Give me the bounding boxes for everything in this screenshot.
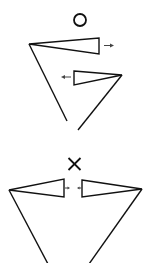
arrow-right-small-icon (65, 187, 70, 190)
left-long-line (29, 44, 67, 121)
upper-wedge-shape (29, 38, 99, 54)
right-long-line-bottom (89, 189, 142, 263)
panel-incorrect (9, 158, 142, 263)
correct-mark-icon (74, 14, 86, 26)
left-wedge-shape (9, 179, 64, 197)
arrow-right-icon (104, 44, 114, 48)
arrow-left-icon (61, 75, 71, 79)
incorrect-mark-icon (69, 158, 81, 170)
panel-correct (29, 14, 122, 130)
diagram (0, 0, 151, 263)
left-long-line-bottom (9, 190, 48, 263)
arrow-left-small-icon (77, 187, 82, 190)
right-wedge-shape (82, 180, 142, 197)
